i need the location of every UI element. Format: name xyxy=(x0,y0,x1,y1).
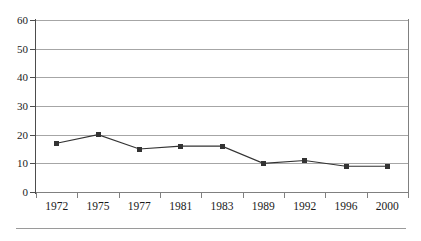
chart-figure: 6050403020100 19721975197719811983198919… xyxy=(0,0,421,241)
x-tick-mark xyxy=(36,192,37,198)
x-tick-mark xyxy=(77,192,78,198)
y-tick-label: 20 xyxy=(2,130,28,141)
x-tick-mark xyxy=(243,192,244,198)
x-tick-label: 1977 xyxy=(119,199,160,213)
x-tick-label: 1983 xyxy=(201,199,242,213)
data-point-marker xyxy=(302,158,307,163)
data-point-marker xyxy=(137,147,142,152)
x-tick-label: 1972 xyxy=(36,199,77,213)
y-tick-label: 30 xyxy=(2,101,28,112)
data-point-marker xyxy=(178,144,183,149)
x-tick-mark xyxy=(119,192,120,198)
x-tick-label: 1975 xyxy=(77,199,118,213)
gridline xyxy=(36,192,408,193)
x-tick-mark xyxy=(325,192,326,198)
x-tick-mark xyxy=(160,192,161,198)
y-tick-label: 60 xyxy=(2,15,28,26)
x-tick-label: 1989 xyxy=(243,199,284,213)
x-tick-mark xyxy=(408,192,409,198)
y-tick-label: 40 xyxy=(2,72,28,83)
x-tick-mark xyxy=(367,192,368,198)
data-point-marker xyxy=(344,164,349,169)
x-tick-mark xyxy=(284,192,285,198)
data-point-marker xyxy=(261,161,266,166)
x-tick-label: 1996 xyxy=(325,199,366,213)
y-tick-label: 10 xyxy=(2,158,28,169)
data-point-marker xyxy=(220,144,225,149)
data-point-marker xyxy=(385,164,390,169)
x-tick-label: 1981 xyxy=(160,199,201,213)
data-point-marker xyxy=(54,141,59,146)
y-tick-label: 50 xyxy=(2,44,28,55)
x-tick-label: 1992 xyxy=(284,199,325,213)
data-series-line xyxy=(36,20,408,192)
x-tick-mark xyxy=(201,192,202,198)
y-tick-label: 0 xyxy=(2,187,28,198)
bottom-divider xyxy=(16,228,406,229)
plot-right-border xyxy=(408,19,409,193)
x-tick-label: 2000 xyxy=(367,199,408,213)
data-point-marker xyxy=(96,132,101,137)
